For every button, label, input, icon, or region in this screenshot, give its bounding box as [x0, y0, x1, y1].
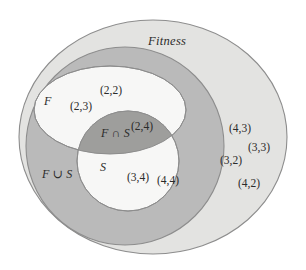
point-label: (4,3) — [229, 123, 251, 135]
set-label-f: F — [44, 95, 51, 107]
union-label-f-union-s: F ∪ S — [42, 168, 72, 180]
point-label: (2,3) — [70, 101, 92, 113]
point-label: (3,3) — [248, 142, 270, 154]
universe-title-fitness: Fitness — [148, 35, 186, 48]
point-label: (4,2) — [238, 178, 260, 190]
point-label: (2,4) — [131, 121, 153, 133]
intersection-label-f-and-s: F ∩ S — [101, 127, 130, 139]
point-label: (2,2) — [100, 85, 122, 97]
set-label-s: S — [100, 161, 106, 173]
point-label: (4,4) — [157, 175, 179, 187]
point-label: (3,2) — [220, 155, 242, 167]
venn-diagram-figure: Fitness F S F ∩ S F ∪ S (2,2)(2,3)(2,4)(… — [0, 0, 306, 270]
point-label: (3,4) — [127, 172, 149, 184]
